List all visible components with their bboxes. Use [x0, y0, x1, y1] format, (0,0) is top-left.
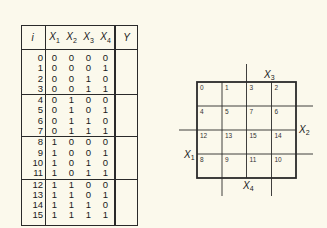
kmap-cell-index: 9	[225, 156, 229, 163]
kmap-cell-index: 5	[225, 108, 229, 115]
kmap-cell-index: 6	[275, 108, 279, 115]
kmap-cell-index: 14	[275, 132, 283, 139]
kmap-cell-index: 10	[275, 156, 283, 163]
kmap-cell-index: 12	[200, 132, 208, 139]
kmap-cell-index: 7	[250, 108, 254, 115]
kmap-label-x1: X1	[183, 149, 195, 161]
kmap-cell-index: 4	[200, 108, 204, 115]
kmap-cell-index: 2	[275, 84, 279, 91]
kmap-cell-index: 1	[225, 84, 229, 91]
kmap-cell-index: 8	[200, 156, 204, 163]
kmap-cell-index: 13	[225, 132, 233, 139]
karnaugh-map: 0132457612131514891110 X3 X2 X1 X4	[0, 0, 327, 228]
kmap-label-x2: X2	[298, 124, 310, 136]
kmap-cell-index: 11	[250, 156, 257, 163]
kmap-label-x4: X4	[242, 180, 254, 192]
kmap-cell-index: 0	[200, 84, 204, 91]
kmap-label-x3: X3	[263, 69, 275, 81]
kmap-cell-index: 3	[250, 84, 254, 91]
kmap-cells: 0132457612131514891110	[200, 84, 282, 163]
kmap-cell-index: 15	[250, 132, 258, 139]
